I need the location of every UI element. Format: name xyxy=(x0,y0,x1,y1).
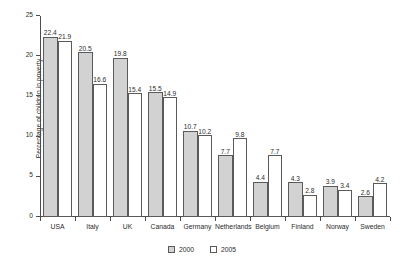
bar: 7.7 xyxy=(218,155,233,217)
x-tick xyxy=(215,217,216,221)
bar-value-label: 22.4 xyxy=(44,29,57,36)
bar-value-label: 7.7 xyxy=(270,148,279,155)
bar-group: 22.421.9 xyxy=(43,16,72,217)
legend-swatch xyxy=(210,246,217,253)
legend-label: 2000 xyxy=(179,246,194,253)
legend-item: 2000 xyxy=(168,246,194,253)
bar: 21.9 xyxy=(58,41,73,217)
bar-group: 20.516.6 xyxy=(78,16,107,217)
x-axis-label: Canada xyxy=(145,223,180,230)
bar: 2.8 xyxy=(303,195,318,218)
bar-value-label: 15.4 xyxy=(128,86,141,93)
x-tick xyxy=(355,217,356,221)
bar-value-label: 10.7 xyxy=(184,123,197,130)
bar-group: 10.710.2 xyxy=(183,16,212,217)
bar: 3.4 xyxy=(338,190,353,217)
legend-label: 2005 xyxy=(221,246,236,253)
x-tick xyxy=(180,217,181,221)
bar-value-label: 4.4 xyxy=(256,174,265,181)
bar-value-label: 20.5 xyxy=(79,45,92,52)
x-tick xyxy=(320,217,321,221)
y-tick-label: 25 xyxy=(26,11,33,18)
bar: 9.8 xyxy=(233,138,248,217)
y-tick-label: 20 xyxy=(26,51,33,58)
bar: 19.8 xyxy=(113,58,128,217)
bar: 4.4 xyxy=(253,182,268,217)
bar-value-label: 4.2 xyxy=(375,176,384,183)
x-tick xyxy=(40,217,41,221)
bar-group: 7.79.8 xyxy=(218,16,247,217)
bar: 14.9 xyxy=(163,97,178,217)
x-tick xyxy=(145,217,146,221)
x-axis-label: Germany xyxy=(180,223,215,230)
bar: 22.4 xyxy=(43,37,58,217)
y-tick-label: 5 xyxy=(29,171,33,178)
bar-group: 19.815.4 xyxy=(113,16,142,217)
bar: 4.2 xyxy=(373,183,388,217)
bar-value-label: 19.8 xyxy=(114,50,127,57)
x-tick xyxy=(285,217,286,221)
bar-value-label: 2.6 xyxy=(361,189,370,196)
x-tick xyxy=(75,217,76,221)
y-tick-label: 10 xyxy=(26,131,33,138)
bar: 7.7 xyxy=(268,155,283,217)
bar: 15.5 xyxy=(148,92,163,217)
bar: 3.9 xyxy=(323,186,338,217)
bar-value-label: 9.8 xyxy=(235,131,244,138)
x-axis-label: Belgium xyxy=(250,223,285,230)
bar: 2.6 xyxy=(358,196,373,217)
y-tick: 5 xyxy=(36,176,40,177)
x-axis-label: UK xyxy=(110,223,145,230)
x-axis-label: Finland xyxy=(285,223,320,230)
y-tick: 25 xyxy=(36,15,40,16)
bar-value-label: 21.9 xyxy=(58,33,71,40)
bar: 10.2 xyxy=(198,135,213,217)
bar-value-label: 16.6 xyxy=(93,76,106,83)
y-tick: 15 xyxy=(36,95,40,96)
bar-value-label: 4.3 xyxy=(291,175,300,182)
bar-group: 4.47.7 xyxy=(253,16,282,217)
legend-swatch xyxy=(168,246,175,253)
bar-value-label: 15.5 xyxy=(149,85,162,92)
bar-value-label: 3.9 xyxy=(326,178,335,185)
bar-value-label: 10.2 xyxy=(198,128,211,135)
bar: 16.6 xyxy=(93,84,108,217)
x-tick xyxy=(110,217,111,221)
legend-item: 2005 xyxy=(210,246,236,253)
bar: 4.3 xyxy=(288,182,303,217)
x-axis-label: USA xyxy=(40,223,75,230)
x-axis-label: Italy xyxy=(75,223,110,230)
chart-legend: 20002005 xyxy=(0,246,404,253)
bar-value-label: 7.7 xyxy=(221,148,230,155)
plot-area: 0510152025 22.421.920.516.619.815.415.51… xyxy=(40,16,390,217)
bar-group: 15.514.9 xyxy=(148,16,177,217)
bar-group: 2.64.2 xyxy=(358,16,387,217)
x-axis-label: Norway xyxy=(320,223,355,230)
y-axis-line xyxy=(40,16,41,217)
y-tick: 10 xyxy=(36,136,40,137)
bar-value-label: 14.9 xyxy=(163,90,176,97)
bar-group: 3.93.4 xyxy=(323,16,352,217)
y-tick: 20 xyxy=(36,55,40,56)
bar-value-label: 2.8 xyxy=(305,187,314,194)
x-tick xyxy=(390,217,391,221)
y-tick-label: 15 xyxy=(26,91,33,98)
x-tick xyxy=(250,217,251,221)
bar: 10.7 xyxy=(183,131,198,217)
bar-chart: Percentage of children in poverty 051015… xyxy=(0,0,404,273)
bar-group: 4.32.8 xyxy=(288,16,317,217)
y-tick-label: 0 xyxy=(29,212,33,219)
x-axis-label: Netherlands xyxy=(215,223,250,230)
x-axis-label: Sweden xyxy=(355,223,390,230)
bar: 15.4 xyxy=(128,93,143,217)
bar: 20.5 xyxy=(78,52,93,217)
bar-value-label: 3.4 xyxy=(340,182,349,189)
